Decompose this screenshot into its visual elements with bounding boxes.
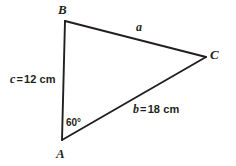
side-b-equals: =	[139, 103, 148, 115]
side-label-a: a	[136, 21, 142, 33]
side-b-value: 18	[148, 103, 160, 115]
angle-label-a: 60°	[66, 118, 81, 128]
triangle-diagram: B C A a c=12 cm b=18 cm 60°	[0, 0, 236, 166]
side-label-b: b=18 cm	[133, 103, 179, 115]
side-b-line	[62, 57, 206, 140]
vertex-label-a: A	[56, 147, 65, 160]
side-b-unit: cm	[163, 103, 179, 115]
side-c-unit: cm	[40, 73, 56, 85]
vertex-label-c: C	[210, 48, 219, 61]
side-label-c: c=12 cm	[10, 73, 56, 85]
side-c-line	[62, 21, 65, 140]
side-c-value: 12	[24, 73, 36, 85]
vertex-label-b: B	[58, 3, 67, 16]
side-c-equals: =	[15, 73, 24, 85]
